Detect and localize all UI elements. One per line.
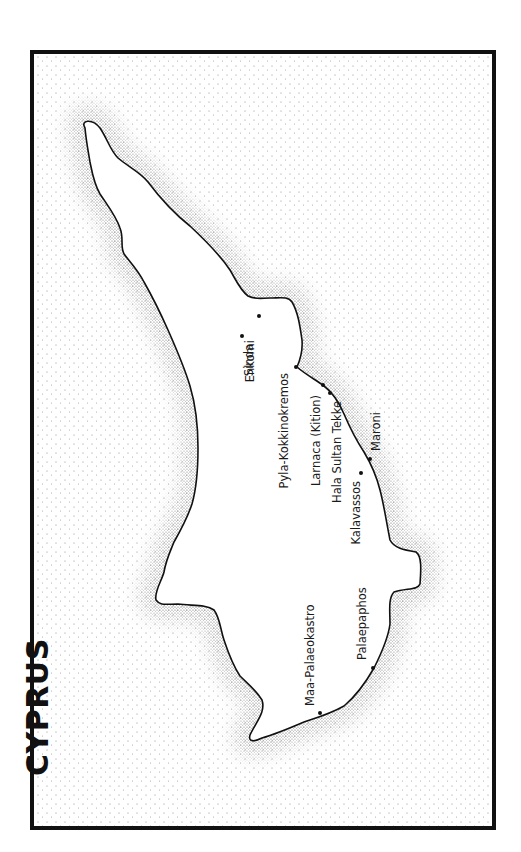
site-label: Pyla-Kokkinokremos <box>277 373 291 488</box>
site-pin-icon <box>294 365 298 369</box>
site-pin-icon <box>318 711 322 715</box>
site-pin-icon <box>328 391 332 395</box>
site-pin-icon <box>240 334 244 338</box>
site-pin-icon <box>371 666 375 670</box>
site-pin-icon <box>359 471 363 475</box>
site-label: Larnaca (Kition) <box>309 395 323 486</box>
site-label: Kalavassos <box>349 481 363 545</box>
site-label: Maroni <box>369 412 383 451</box>
site-kalavassos: Kalavassos <box>349 471 363 545</box>
map-title: CYPRUS <box>20 638 55 776</box>
site-label: Maa-Palaeokastro <box>303 604 317 706</box>
cyprus-map: CYPRUS EnkomiSindaPyla-KokkinokremosLarn… <box>0 0 521 852</box>
site-label: Palaepaphos <box>355 587 369 660</box>
site-label: Hala Sultan Tekke <box>330 401 344 503</box>
site-pin-icon <box>257 314 261 318</box>
site-pin-icon <box>368 457 372 461</box>
site-label: Sinda <box>242 344 256 376</box>
site-pin-icon <box>321 383 325 387</box>
site-hala-sultan-tekke: Hala Sultan Tekke <box>328 391 344 503</box>
site-larnaca-kition: Larnaca (Kition) <box>309 383 325 486</box>
